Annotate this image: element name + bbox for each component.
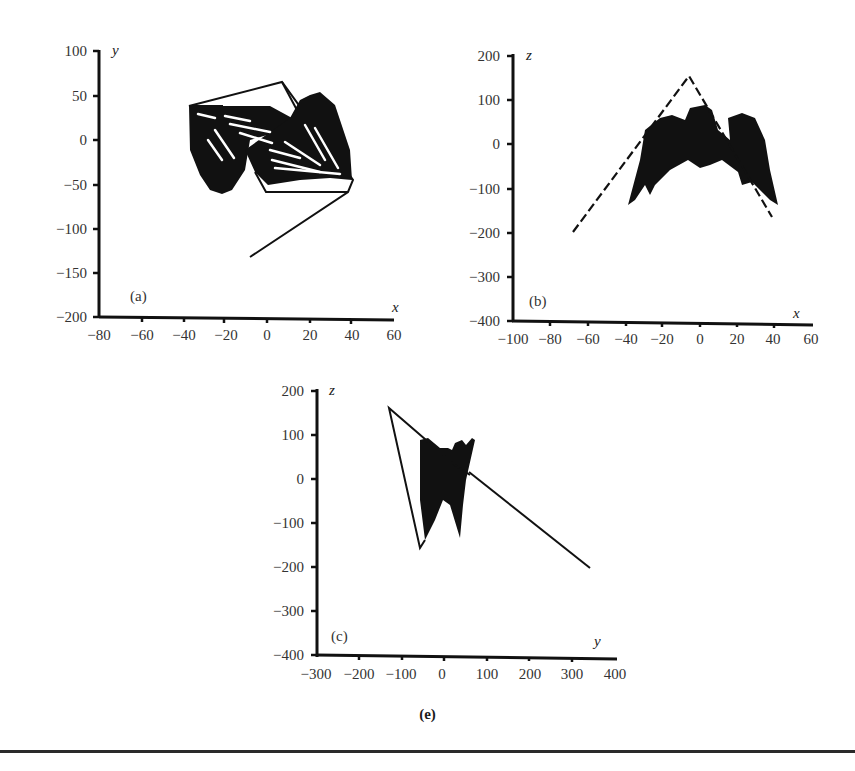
- xtick: 60: [804, 331, 819, 347]
- ytick: −150: [56, 265, 87, 281]
- ytick: 0: [80, 132, 88, 148]
- plot-b: 200 100 0 −100 −200 −300 −400 −100 −80 −…: [469, 47, 818, 347]
- xtick: 20: [303, 327, 318, 343]
- ytick: 50: [72, 88, 87, 104]
- x-axis-label: x: [792, 305, 800, 321]
- ytick: −100: [273, 515, 304, 531]
- x-axis-label: y: [592, 633, 601, 649]
- panel-label: (a): [130, 288, 147, 305]
- xtick: 20: [730, 331, 745, 347]
- x-axis-label: x: [391, 299, 399, 315]
- ytick: −200: [273, 559, 304, 575]
- xtick: 40: [766, 331, 781, 347]
- ytick: −200: [56, 309, 87, 325]
- ytick: 0: [297, 471, 305, 487]
- xtick: −100: [498, 331, 529, 347]
- plot-a: 100 50 0 −50 −100 −150 −200 −80 −60 −40 …: [56, 42, 401, 343]
- figure-canvas: 100 50 0 −50 −100 −150 −200 −80 −60 −40 …: [0, 0, 855, 771]
- ytick: −100: [56, 221, 87, 237]
- xtick: 60: [387, 327, 402, 343]
- ytick: −300: [469, 269, 500, 285]
- ytick: 0: [493, 136, 501, 152]
- xtick: −80: [538, 331, 561, 347]
- ytick: −100: [469, 181, 500, 197]
- xtick: −60: [130, 327, 153, 343]
- xtick: 400: [604, 666, 627, 682]
- xtick: 0: [696, 331, 704, 347]
- panel-label: (b): [529, 293, 547, 310]
- ytick: 200: [478, 48, 501, 64]
- xtick: −40: [172, 327, 195, 343]
- xtick: 300: [561, 666, 584, 682]
- xtick: −60: [576, 331, 599, 347]
- ytick: −400: [273, 647, 304, 663]
- ytick: −200: [469, 225, 500, 241]
- y-axis-label: y: [110, 42, 119, 58]
- y-axis-label: z: [525, 47, 532, 63]
- page-rule-divider: [0, 750, 855, 753]
- ytick: 200: [282, 383, 305, 399]
- attractor-region: [420, 438, 475, 540]
- ytick: −50: [64, 177, 87, 193]
- xtick: 40: [345, 327, 360, 343]
- xtick: −300: [301, 666, 332, 682]
- xtick: 0: [263, 327, 271, 343]
- xtick: −100: [386, 666, 417, 682]
- ytick: −400: [469, 313, 500, 329]
- xtick: −40: [614, 331, 637, 347]
- panel-label: (c): [331, 628, 348, 645]
- y-axis-label: z: [328, 382, 335, 398]
- xtick: −20: [214, 327, 237, 343]
- ytick: −300: [273, 603, 304, 619]
- xtick: 0: [438, 666, 446, 682]
- figure-caption: (e): [0, 706, 855, 723]
- xtick: 100: [476, 666, 499, 682]
- xtick: −20: [650, 331, 673, 347]
- ytick: 100: [65, 43, 88, 59]
- plot-c: 200 100 0 −100 −200 −300 −400 −300 −200 …: [273, 382, 626, 682]
- transient-trajectory: [469, 472, 590, 568]
- xtick: −80: [87, 327, 110, 343]
- ytick: 100: [478, 92, 501, 108]
- xtick: −200: [344, 666, 375, 682]
- ytick: 100: [282, 427, 305, 443]
- xtick: 200: [519, 666, 542, 682]
